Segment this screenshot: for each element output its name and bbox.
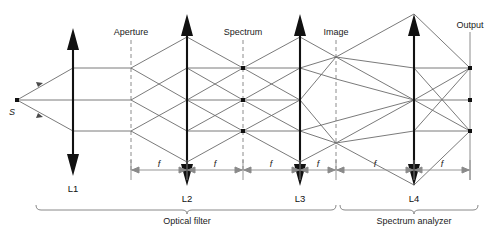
rays-aperture-l2	[131, 37, 187, 162]
lens-label-L3: L3	[295, 193, 306, 204]
focal-label-3: f	[270, 159, 274, 169]
output-node-bottom	[468, 129, 472, 133]
focal-label-1: f	[158, 159, 162, 169]
output-node-mid	[468, 98, 472, 102]
bracket-spectrum-analyzer	[340, 205, 478, 214]
source-label: S	[9, 107, 15, 117]
plane-label-spectrum: Spectrum	[224, 27, 263, 37]
bracket-optical-filter	[36, 205, 336, 214]
plane-label-aperture: Aperture	[114, 27, 149, 37]
output-node-top	[468, 66, 472, 70]
focal-label-2: f	[214, 159, 218, 169]
rays-spectrum-l3	[243, 37, 300, 162]
lens-L1	[67, 28, 79, 176]
focal-label-4: f	[317, 159, 321, 169]
focal-label-6: f	[441, 159, 445, 169]
spectrum-node-top	[241, 66, 245, 70]
focal-label-5: f	[374, 159, 378, 169]
spectrum-node-bottom	[241, 129, 245, 133]
rays-l3-image	[300, 37, 336, 162]
plane-label-output: Output	[456, 20, 484, 30]
lens-label-L1: L1	[68, 183, 79, 194]
rays-l1-aperture	[73, 68, 131, 131]
optical-system-diagram: Aperture Spectrum Image Output S L1 L2 L…	[0, 0, 492, 230]
rays-l2-spectrum	[187, 37, 243, 162]
group-brackets	[36, 205, 478, 214]
source-rays	[17, 68, 73, 131]
group-label-spectrum-analyzer: Spectrum analyzer	[376, 216, 451, 226]
lens-label-L4: L4	[409, 193, 420, 204]
spectrum-node-mid	[241, 98, 245, 102]
plane-label-image: Image	[323, 27, 348, 37]
group-label-optical-filter: Optical filter	[163, 216, 211, 226]
diagram-canvas: Aperture Spectrum Image Output S L1 L2 L…	[0, 0, 492, 230]
source-point	[15, 98, 19, 102]
lens-label-L2: L2	[182, 193, 193, 204]
